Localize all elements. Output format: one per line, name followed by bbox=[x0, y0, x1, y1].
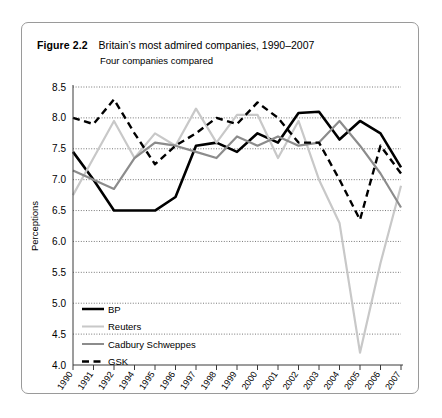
legend-label-gsk: GSK bbox=[108, 356, 129, 367]
y-axis-tick-labels: 4.04.55.05.56.06.57.07.58.08.5 bbox=[52, 82, 66, 371]
x-tick-label: 1996 bbox=[158, 370, 177, 392]
series-line-gsk bbox=[73, 99, 401, 219]
x-axis-tick-labels: 1990199119921994199519961997199819992000… bbox=[55, 370, 402, 392]
x-tick-label: 1994 bbox=[117, 370, 136, 392]
data-series-group bbox=[73, 99, 401, 352]
x-tick-label: 2003 bbox=[301, 370, 320, 392]
x-tick-label: 1992 bbox=[96, 370, 115, 392]
x-tick-label: 2002 bbox=[281, 370, 300, 392]
x-tick-label: 1998 bbox=[199, 370, 218, 392]
legend-label-cadbury-schweppes: Cadbury Schweppes bbox=[108, 339, 196, 350]
line-chart: 4.04.55.05.56.06.57.07.58.08.5 199019911… bbox=[22, 23, 419, 394]
y-tick-label: 6.0 bbox=[52, 236, 66, 247]
y-tick-label: 7.5 bbox=[52, 143, 66, 154]
y-tick-label: 4.5 bbox=[52, 329, 66, 340]
x-tick-label: 2007 bbox=[383, 370, 402, 392]
y-axis-title-text: Perceptions bbox=[29, 201, 40, 251]
y-tick-label: 4.0 bbox=[52, 360, 66, 371]
y-tick-label: 5.5 bbox=[52, 267, 66, 278]
y-tick-label: 6.5 bbox=[52, 205, 66, 216]
series-line-reuters bbox=[73, 109, 401, 353]
x-tick-label: 2004 bbox=[322, 370, 341, 392]
x-tick-label: 2005 bbox=[342, 370, 361, 392]
x-tick-label: 2006 bbox=[363, 370, 382, 392]
y-tick-label: 8.5 bbox=[52, 82, 66, 93]
y-tick-label: 7.0 bbox=[52, 174, 66, 185]
y-tick-label: 8.0 bbox=[52, 112, 66, 123]
x-tick-label: 2000 bbox=[240, 370, 259, 392]
x-tick-label: 1997 bbox=[178, 370, 197, 392]
x-tick-label: 2001 bbox=[260, 370, 279, 392]
legend-label-reuters: Reuters bbox=[108, 321, 142, 332]
chart-legend: BPReutersCadbury SchweppesGSK bbox=[82, 304, 196, 368]
y-tick-label: 5.0 bbox=[52, 298, 66, 309]
x-tick-label: 1991 bbox=[76, 370, 95, 392]
y-axis-title: Perceptions bbox=[29, 201, 40, 251]
chart-plot-area: 4.04.55.05.56.06.57.07.58.08.5 199019911… bbox=[22, 23, 419, 394]
series-line-bp bbox=[73, 112, 401, 211]
legend-label-bp: BP bbox=[108, 304, 121, 315]
figure-card: Figure 2.2Britain’s most admired compani… bbox=[21, 22, 419, 394]
x-tick-label: 1999 bbox=[219, 370, 238, 392]
x-tick-label: 1995 bbox=[137, 370, 156, 392]
x-tick-label: 1990 bbox=[55, 370, 74, 392]
